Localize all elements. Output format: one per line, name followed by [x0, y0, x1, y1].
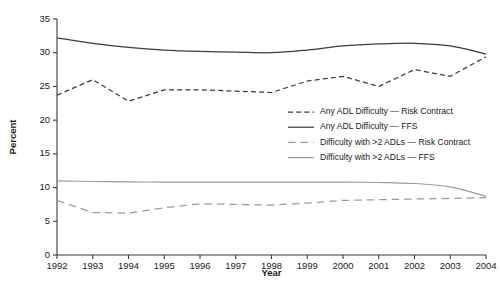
legend-label-2: Any ADL Difficulty — FFS: [320, 121, 418, 131]
series-line-1: [57, 57, 486, 102]
x-axis-title: Year: [261, 267, 281, 278]
legend-label-1: Any ADL Difficulty — Risk Contract: [320, 106, 453, 116]
legend-label-4: Difficulty with >2 ADLs — FFS: [320, 152, 435, 162]
series-line-3: [57, 198, 486, 214]
x-tick-label: 1997: [225, 260, 246, 271]
y-tick-label: 15: [39, 147, 50, 158]
x-tick-label: 1999: [297, 260, 318, 271]
series-line-2: [57, 38, 486, 54]
x-tick-label: 1994: [118, 260, 139, 271]
x-tick-label: 2002: [404, 260, 425, 271]
x-tick-label: 1995: [154, 260, 175, 271]
x-tick-label: 1996: [189, 260, 210, 271]
x-tick-label: 2000: [332, 260, 353, 271]
legend-label-3: Difficulty with >2 ADLs — Risk Contract: [320, 137, 471, 147]
y-tick-label: 20: [39, 114, 50, 125]
y-tick-label: 30: [39, 46, 50, 57]
chart-container: 0510152025303519921993199419951996199719…: [0, 0, 500, 301]
y-tick-label: 10: [39, 181, 50, 192]
x-tick-label: 1993: [82, 260, 103, 271]
y-tick-label: 35: [39, 13, 50, 24]
line-chart: 0510152025303519921993199419951996199719…: [0, 0, 500, 301]
x-tick-label: 2001: [368, 260, 389, 271]
x-tick-label: 1992: [46, 260, 67, 271]
x-tick-label: 2004: [475, 260, 496, 271]
y-axis-title: Percent: [7, 119, 18, 155]
y-tick-label: 0: [45, 249, 50, 260]
series-line-4: [57, 181, 486, 197]
y-tick-label: 25: [39, 80, 50, 91]
x-tick-label: 2003: [440, 260, 461, 271]
y-tick-label: 5: [45, 215, 50, 226]
